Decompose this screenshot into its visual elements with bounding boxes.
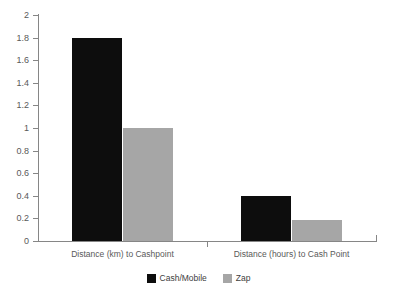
legend-label: Zap [236, 274, 251, 283]
bar [72, 38, 123, 241]
plot-area [38, 15, 376, 241]
legend-swatch-icon [147, 274, 156, 283]
x-category-separator [207, 241, 208, 247]
y-tick-label: 1.4 [3, 79, 29, 88]
y-tick-label: 2 [3, 11, 29, 20]
y-tick-label: 1 [3, 124, 29, 133]
y-tick-label: 0.2 [3, 214, 29, 223]
legend-swatch-icon [223, 274, 232, 283]
legend-item[interactable]: Cash/Mobile [147, 274, 207, 283]
y-tick-label: 1.6 [3, 56, 29, 65]
y-tick-label: 0 [3, 237, 29, 246]
bar [241, 196, 292, 241]
chart-legend: Cash/MobileZap [0, 274, 397, 283]
y-tick-label: 0.4 [3, 192, 29, 201]
legend-label: Cash/Mobile [160, 274, 207, 283]
x-category-label: Distance (hours) to Cash Point [207, 250, 376, 259]
bar [292, 220, 343, 241]
y-tick-label: 1.2 [3, 101, 29, 110]
legend-item[interactable]: Zap [223, 274, 251, 283]
y-tick-label: 0.8 [3, 147, 29, 156]
x-axis-endcap [376, 235, 377, 242]
bar [123, 128, 174, 241]
y-tick-mark [33, 241, 38, 242]
bar-chart: 00.20.40.60.811.21.41.61.82 Distance (km… [0, 0, 397, 301]
y-tick-label: 0.6 [3, 169, 29, 178]
y-tick-label: 1.8 [3, 34, 29, 43]
x-category-label: Distance (km) to Cashpoint [38, 250, 207, 259]
